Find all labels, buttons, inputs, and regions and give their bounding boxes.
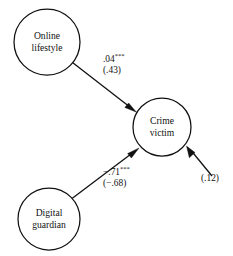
coef-stars-lifestyle-victim: *** — [115, 52, 125, 59]
svg-text:−.71***: −.71*** — [103, 165, 130, 177]
coef-stars-guardian-victim: *** — [120, 165, 130, 172]
node-label-digital-guardian-line2: guardian — [32, 219, 66, 230]
node-digital-guardian[interactable]: Digital guardian — [18, 188, 80, 250]
node-label-crime-victim-line2: victim — [150, 127, 175, 138]
path-diagram-canvas: Online lifestyle Crime victim Digital gu… — [0, 0, 233, 256]
disturbance-value: (.12) — [201, 173, 219, 184]
coef-standardized-lifestyle-victim: (.43) — [103, 65, 121, 76]
node-crime-victim[interactable]: Crime victim — [133, 98, 191, 156]
arrowhead-guardian-victim — [128, 148, 139, 158]
path-line-lifestyle-victim — [73, 63, 131, 108]
arrowhead-disturbance-victim — [187, 146, 196, 158]
node-label-online-lifestyle-line2: lifestyle — [32, 42, 63, 53]
path-diagram-figure: Online lifestyle Crime victim Digital gu… — [0, 0, 233, 256]
coefficient-label-lifestyle-victim: .04*** (.43) — [103, 52, 125, 76]
node-label-digital-guardian-line1: Digital — [36, 207, 63, 218]
svg-text:.04***: .04*** — [103, 52, 125, 64]
coef-standardized-guardian-victim: (−.68) — [103, 178, 126, 189]
coefficient-label-guardian-victim: −.71*** (−.68) — [103, 165, 130, 189]
coef-value-lifestyle-victim: .04 — [103, 54, 115, 64]
node-label-crime-victim-line1: Crime — [150, 115, 174, 126]
coef-value-guardian-victim: −.71 — [103, 167, 120, 177]
path-disturbance-to-victim — [187, 146, 213, 176]
node-label-online-lifestyle-line1: Online — [34, 30, 60, 41]
node-online-lifestyle[interactable]: Online lifestyle — [14, 9, 80, 75]
disturbance-label: (.12) — [201, 173, 219, 184]
